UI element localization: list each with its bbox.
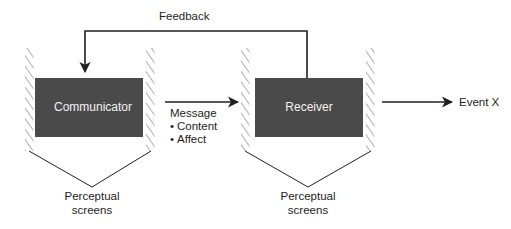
message-label: Message bbox=[170, 107, 217, 121]
perceptual-screens-line2: screens bbox=[256, 204, 360, 218]
feedback-label: Feedback bbox=[159, 10, 210, 24]
node-communicator-label: Communicator bbox=[43, 100, 143, 114]
list-item: •Affect bbox=[170, 133, 217, 146]
perceptual-screens-line1: Perceptual bbox=[256, 190, 360, 204]
bullet-icon: • bbox=[170, 133, 177, 146]
perceptual-screen-bar-2 bbox=[146, 48, 155, 151]
perceptual-screens-line2: screens bbox=[40, 204, 144, 218]
perceptual-screen-bar-4 bbox=[366, 48, 375, 151]
perceptual-screen-bar-1 bbox=[25, 48, 34, 151]
perceptual-screen-bar-3 bbox=[241, 48, 250, 151]
message-attribute-list: •Content •Affect bbox=[170, 120, 217, 146]
screens-leader-right bbox=[245, 151, 371, 187]
event-x-label: Event X bbox=[459, 96, 499, 110]
list-item-label: Affect bbox=[177, 133, 206, 145]
bullet-icon: • bbox=[170, 120, 177, 133]
list-item: •Content bbox=[170, 120, 217, 133]
perceptual-screens-line1: Perceptual bbox=[40, 190, 144, 204]
perceptual-screens-label-left: Perceptual screens bbox=[40, 190, 144, 217]
diagram-canvas: Communicator Receiver Feedback Message •… bbox=[0, 0, 511, 229]
screens-leader-left bbox=[29, 151, 151, 187]
node-receiver-label: Receiver bbox=[259, 100, 359, 114]
list-item-label: Content bbox=[177, 120, 217, 132]
feedback-connector bbox=[85, 31, 307, 78]
perceptual-screens-label-right: Perceptual screens bbox=[256, 190, 360, 217]
